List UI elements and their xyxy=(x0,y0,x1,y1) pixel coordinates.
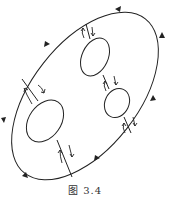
cut-arrow-icons xyxy=(24,27,137,163)
cuts xyxy=(22,24,131,177)
figure-caption: 图 3.4 xyxy=(0,182,170,197)
holes xyxy=(19,33,135,149)
diagram-canvas xyxy=(0,0,170,200)
hole-upper xyxy=(75,33,115,80)
outer-boundary xyxy=(0,0,170,200)
hole-lower-left xyxy=(19,93,72,149)
